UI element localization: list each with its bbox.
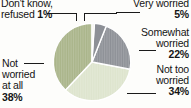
label-somewhat-worried-percent: 22% xyxy=(119,49,189,60)
label-dont-know-line2: refused 1% xyxy=(1,9,53,20)
label-not-too-worried: Not too worried 34% xyxy=(119,64,189,98)
label-not-worried-at-all-line3: at all xyxy=(2,80,35,91)
label-not-too-worried-percent: 34% xyxy=(119,86,189,97)
label-dont-know-percent: 1% xyxy=(37,8,52,20)
label-not-worried-at-all-percent: 38% xyxy=(2,92,35,103)
leader-line-very-worried-drop xyxy=(84,13,85,21)
label-very-worried-percent: 5% xyxy=(107,9,189,20)
pie-chart-screenshot: Don't know, refused 1% Very worried 5% S… xyxy=(0,0,191,108)
label-somewhat-worried: Somewhat worried 22% xyxy=(119,27,189,61)
label-dont-know: Don't know, refused 1% xyxy=(1,0,53,20)
label-not-worried-at-all: Not worried at all 38% xyxy=(2,58,35,103)
label-very-worried: Very worried 5% xyxy=(107,0,189,20)
leader-line-dont-know-drop xyxy=(76,13,77,21)
